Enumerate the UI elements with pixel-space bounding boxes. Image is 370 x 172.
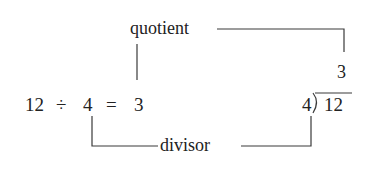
- equation-dividend: 12: [25, 94, 44, 115]
- divisor-label: divisor: [160, 135, 210, 155]
- quotient-label: quotient: [130, 18, 189, 38]
- divisor-connector-left: [92, 116, 158, 146]
- long-division-bracket-icon: [313, 93, 317, 113]
- equation: 12 ÷ 4 = 3: [25, 94, 144, 115]
- quotient-connector-right: [217, 29, 344, 52]
- equation-equals-sign: =: [106, 94, 117, 115]
- long-division-quotient: 3: [337, 62, 346, 82]
- equation-divisor: 4: [83, 94, 93, 115]
- diagram-svg: quotient 3 12 ÷ 4 = 3 4 12 divisor: [0, 0, 370, 172]
- division-terms-diagram: quotient 3 12 ÷ 4 = 3 4 12 divisor: [0, 0, 370, 172]
- divisor-connector-right: [241, 116, 311, 146]
- long-division-divisor: 4: [302, 94, 312, 115]
- long-division-dividend: 12: [324, 94, 343, 115]
- equation-quotient: 3: [134, 94, 144, 115]
- long-division: 4 12: [302, 93, 352, 115]
- equation-divide-sign: ÷: [56, 94, 66, 115]
